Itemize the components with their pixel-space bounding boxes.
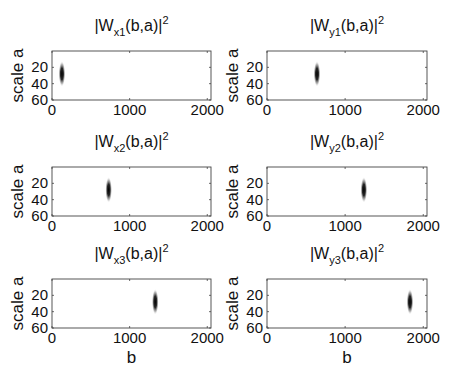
title-main: |W xyxy=(94,245,114,262)
y-tick-label: 40 xyxy=(246,191,263,208)
x-tick-label: 2000 xyxy=(407,217,440,234)
subplot-2: 010002000204060scale a|Wy1(b,a)|2 xyxy=(223,14,440,118)
plot-area xyxy=(52,167,211,216)
title-superscript: 2 xyxy=(378,130,384,142)
title-subscript: y1 xyxy=(329,26,341,38)
y-tick-label: 60 xyxy=(31,319,48,336)
y-tick-label: 60 xyxy=(246,91,263,108)
subplot-title: |Wy2(b,a)|2 xyxy=(310,130,384,154)
y-tick-label: 60 xyxy=(31,91,48,108)
y-tick-label: 20 xyxy=(246,174,263,191)
title-subscript: x1 xyxy=(114,26,126,38)
title-subscript: y2 xyxy=(329,142,341,154)
title-superscript: 2 xyxy=(162,130,168,142)
y-tick-label: 40 xyxy=(31,303,48,320)
title-main: |W xyxy=(94,133,114,150)
x-axis-label: b xyxy=(342,348,351,367)
title-subscript: x2 xyxy=(114,142,126,154)
title-rest: (b,a)| xyxy=(341,133,378,150)
subplot-4: 010002000204060scale a|Wy2(b,a)|2 xyxy=(223,130,440,234)
title-subscript: y3 xyxy=(329,254,341,266)
title-rest: (b,a)| xyxy=(341,17,378,34)
title-subscript: x3 xyxy=(114,254,126,266)
subplot-title: |Wy3(b,a)|2 xyxy=(310,242,384,266)
y-tick-label: 20 xyxy=(246,286,263,303)
y-axis-label: scale a xyxy=(8,48,27,102)
subplot-title: |Wy1(b,a)|2 xyxy=(310,14,384,38)
y-axis-label: scale a xyxy=(223,276,242,330)
energy-blob xyxy=(105,177,112,203)
x-tick-label: 0 xyxy=(48,101,56,118)
title-superscript: 2 xyxy=(162,14,168,26)
plot-area xyxy=(267,279,427,328)
plot-area xyxy=(52,279,211,328)
title-superscript: 2 xyxy=(378,242,384,254)
title-rest: (b,a)| xyxy=(125,133,162,150)
subplot-6: 010002000204060scale ab|Wy3(b,a)|2 xyxy=(223,242,440,367)
x-tick-label: 2000 xyxy=(191,217,224,234)
y-tick-label: 40 xyxy=(31,75,48,92)
y-axis-label: scale a xyxy=(8,276,27,330)
y-tick-label: 60 xyxy=(246,207,263,224)
x-axis-label: b xyxy=(127,348,136,367)
title-rest: (b,a)| xyxy=(125,17,162,34)
energy-blob xyxy=(360,177,367,203)
energy-blob xyxy=(314,61,321,87)
x-tick-label: 0 xyxy=(48,329,56,346)
subplot-1: 010002000204060scale a|Wx1(b,a)|2 xyxy=(8,14,224,118)
y-tick-label: 20 xyxy=(31,286,48,303)
subplot-title: |Wx1(b,a)|2 xyxy=(94,14,168,38)
y-tick-label: 40 xyxy=(31,191,48,208)
y-tick-label: 40 xyxy=(246,303,263,320)
energy-blob xyxy=(152,289,159,315)
y-axis-label: scale a xyxy=(223,164,242,218)
title-superscript: 2 xyxy=(378,14,384,26)
x-tick-label: 0 xyxy=(48,217,56,234)
y-tick-label: 20 xyxy=(246,58,263,75)
x-tick-label: 1000 xyxy=(328,217,361,234)
subplot-title: |Wx3(b,a)|2 xyxy=(94,242,168,266)
subplot-title: |Wx2(b,a)|2 xyxy=(94,130,168,154)
x-tick-label: 0 xyxy=(263,217,271,234)
title-rest: (b,a)| xyxy=(125,245,162,262)
title-main: |W xyxy=(94,17,114,34)
x-tick-label: 2000 xyxy=(191,101,224,118)
x-tick-label: 1000 xyxy=(328,101,361,118)
plot-area xyxy=(267,167,427,216)
x-tick-label: 0 xyxy=(263,329,271,346)
x-tick-label: 0 xyxy=(263,101,271,118)
plot-area xyxy=(267,51,427,100)
wavelet-scalogram-figure: 010002000204060scale a|Wx1(b,a)|20100020… xyxy=(0,0,450,382)
title-rest: (b,a)| xyxy=(341,245,378,262)
subplot-5: 010002000204060scale ab|Wx3(b,a)|2 xyxy=(8,242,224,367)
x-tick-label: 2000 xyxy=(407,101,440,118)
y-axis-label: scale a xyxy=(8,164,27,218)
title-main: |W xyxy=(310,245,330,262)
y-tick-label: 40 xyxy=(246,75,263,92)
energy-blob xyxy=(59,61,66,87)
y-tick-label: 60 xyxy=(31,207,48,224)
y-axis-label: scale a xyxy=(223,48,242,102)
x-tick-label: 2000 xyxy=(407,329,440,346)
energy-blob xyxy=(407,289,414,315)
y-tick-label: 20 xyxy=(31,174,48,191)
y-tick-label: 60 xyxy=(246,319,263,336)
x-tick-label: 1000 xyxy=(113,101,146,118)
title-main: |W xyxy=(310,133,330,150)
plot-area xyxy=(52,51,211,100)
x-tick-label: 1000 xyxy=(328,329,361,346)
y-tick-label: 20 xyxy=(31,58,48,75)
subplot-3: 010002000204060scale a|Wx2(b,a)|2 xyxy=(8,130,224,234)
title-superscript: 2 xyxy=(162,242,168,254)
x-tick-label: 1000 xyxy=(113,217,146,234)
title-main: |W xyxy=(310,17,330,34)
x-tick-label: 1000 xyxy=(113,329,146,346)
x-tick-label: 2000 xyxy=(191,329,224,346)
